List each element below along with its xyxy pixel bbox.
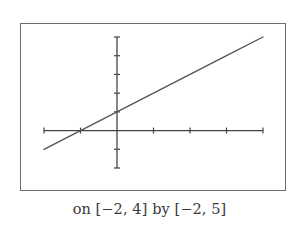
axes bbox=[44, 37, 263, 168]
viewing-window-caption: on [−2, 4] by [−2, 5] bbox=[0, 201, 299, 217]
graph-plot bbox=[0, 0, 299, 229]
